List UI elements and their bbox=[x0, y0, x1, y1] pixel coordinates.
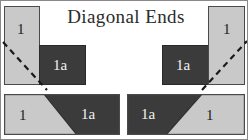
top-right-dark-label: 1a bbox=[176, 58, 190, 73]
bottom-right-light-label: 1 bbox=[206, 108, 214, 123]
top-left-light-label: 1 bbox=[17, 22, 25, 37]
bottom-left-dark-label: 1a bbox=[81, 107, 95, 122]
top-right-light-label: 1 bbox=[223, 22, 231, 37]
top-left-light-member bbox=[4, 6, 40, 85]
top-left-dark-label: 1a bbox=[53, 58, 67, 73]
bottom-right-dark-label: 1a bbox=[141, 107, 155, 122]
page-title: Diagonal Ends bbox=[53, 5, 199, 29]
top-right-light-member bbox=[208, 6, 245, 85]
diagram-canvas: Diagonal Ends 1 1a 1a 1 1 1a 1a 1 bbox=[0, 0, 248, 140]
bottom-left-light-label: 1 bbox=[19, 108, 27, 123]
